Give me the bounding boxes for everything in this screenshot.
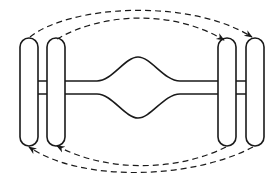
axle-stub-left — [38, 81, 47, 94]
tire-left-inner — [47, 38, 65, 146]
tire-rotation-diagram — [0, 0, 278, 176]
tire-left-outer — [20, 38, 38, 146]
rotation-arrow-left-outer-to-right-outer — [30, 10, 252, 37]
rotation-arrow-right-outer-to-left-outer — [29, 147, 253, 173]
axle-stub-right — [236, 81, 246, 94]
axle-upper-edge — [65, 57, 218, 81]
rotation-arrow-right-inner-to-left-inner — [57, 146, 226, 166]
rotation-arrow-left-inner-to-right-inner — [57, 18, 224, 40]
tire-right-inner — [218, 38, 236, 146]
axle-lower-edge — [65, 94, 218, 118]
tire-right-outer — [246, 38, 264, 146]
